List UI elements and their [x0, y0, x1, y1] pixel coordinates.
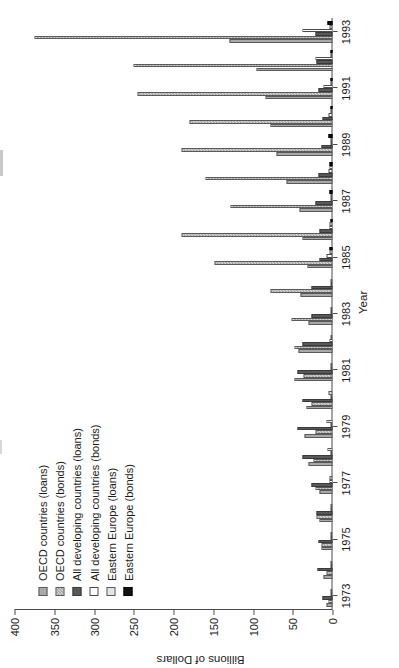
bar [328, 169, 332, 173]
x-tick [332, 539, 337, 540]
bar [319, 258, 332, 262]
legend-label: All developing countries (loans) [70, 428, 82, 581]
bar [304, 434, 332, 438]
x-tick-label: 1985 [339, 245, 351, 269]
legend-item: All developing countries (loans) [70, 424, 82, 596]
bar [329, 339, 332, 343]
bar [330, 282, 332, 286]
bar [316, 511, 332, 515]
bar [330, 592, 332, 596]
x-tick-label: 1993 [339, 20, 351, 44]
x-tick [332, 595, 337, 596]
bar [330, 310, 332, 314]
bar [317, 568, 332, 572]
x-tick [332, 31, 337, 32]
y-tick-label: 300 [88, 618, 100, 636]
bar [326, 420, 332, 424]
bar [327, 448, 332, 452]
bar [315, 57, 332, 61]
bar [330, 194, 332, 198]
bar [330, 564, 332, 568]
bar [214, 261, 332, 265]
bar-group [14, 46, 332, 74]
bar [230, 205, 332, 209]
y-tick [133, 610, 134, 615]
legend-label: All developing countries (bonds) [88, 424, 100, 581]
bar [306, 406, 332, 410]
legend-label: OECD countries (loans) [36, 465, 48, 581]
bar [330, 395, 332, 399]
legend-swatch-icon [55, 587, 64, 596]
bar [300, 293, 332, 297]
bar [330, 451, 332, 455]
bar [330, 561, 332, 565]
bar [302, 342, 332, 346]
bar [229, 39, 332, 43]
x-tick-label: 1983 [339, 302, 351, 326]
bar [297, 370, 332, 374]
bar [270, 124, 332, 128]
bar [270, 289, 332, 293]
bar-group [14, 187, 332, 215]
bar [329, 476, 332, 480]
bar [291, 318, 332, 322]
y-tick-label: 150 [207, 618, 219, 636]
bar [315, 32, 332, 36]
y-tick-label: 100 [247, 618, 259, 636]
bar [318, 173, 332, 177]
bar [328, 391, 332, 395]
bar-group [14, 18, 332, 46]
bar-group [14, 356, 332, 384]
bar [319, 519, 332, 523]
bar [321, 543, 332, 547]
bar [311, 314, 332, 318]
bar [329, 162, 332, 166]
legend-swatch-icon [106, 587, 115, 596]
bar [330, 81, 332, 85]
x-tick-label: 1973 [339, 584, 351, 608]
bar [294, 346, 332, 350]
x-axis-title: Year [356, 291, 368, 314]
legend-swatch-icon [72, 587, 81, 596]
bar [294, 378, 332, 382]
y-tick-label: 250 [127, 618, 139, 636]
bar [329, 226, 332, 230]
x-tick [332, 369, 337, 370]
bar [276, 152, 332, 156]
bar [322, 117, 332, 121]
y-tick [14, 610, 15, 615]
bar [330, 219, 332, 223]
y-tick [332, 610, 333, 615]
bar [181, 148, 332, 152]
bar [329, 25, 332, 29]
bar [330, 138, 332, 142]
y-tick-label: 200 [167, 618, 179, 636]
x-tick [332, 313, 337, 314]
bar [299, 208, 332, 212]
bar [328, 134, 332, 138]
bar [323, 85, 332, 89]
bar [321, 547, 332, 551]
y-tick [292, 610, 293, 615]
x-tick-label: 1989 [339, 133, 351, 157]
legend-item: All developing countries (bonds) [88, 424, 100, 596]
x-tick [332, 257, 337, 258]
bar [286, 180, 332, 184]
x-tick [332, 200, 337, 201]
bar-group [14, 300, 332, 328]
bar [328, 600, 332, 604]
legend-swatch-icon [123, 587, 132, 596]
bar [34, 36, 332, 40]
bar [303, 374, 332, 378]
bar-group [14, 328, 332, 356]
bar [326, 603, 332, 607]
bar [315, 487, 332, 491]
legend-item: Eastern Europe (loans) [105, 424, 117, 596]
x-tick-label: 1987 [339, 189, 351, 213]
x-tick [332, 426, 337, 427]
bar [307, 265, 332, 269]
chart-figure: 050100150200250300350400 197319751977197… [0, 0, 399, 668]
bar [308, 462, 332, 466]
legend-item: Eastern Europe (bonds) [122, 424, 134, 596]
bar [329, 480, 332, 484]
